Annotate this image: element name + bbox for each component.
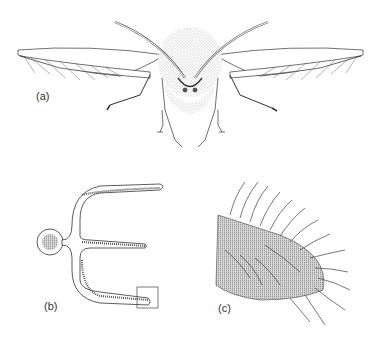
panel-b-forked-structure	[37, 184, 163, 308]
panel-a-moth	[18, 22, 363, 147]
panel-c-bristled-tip	[216, 182, 350, 325]
panel-b-label: (b)	[44, 300, 57, 312]
panel-a-label: (a)	[36, 90, 49, 102]
figure: (a) (b) (c)	[0, 0, 381, 340]
illustration	[0, 0, 381, 340]
panel-c-label: (c)	[218, 302, 231, 314]
